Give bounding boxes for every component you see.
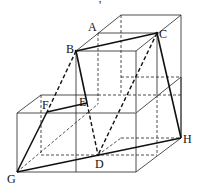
top-mark: ' [99, 0, 101, 12]
label-D: D [95, 157, 104, 171]
segment-CH [157, 33, 181, 138]
segment-FG [17, 112, 47, 172]
segment-BF [47, 51, 76, 112]
label-C: C [159, 27, 167, 41]
point-B [75, 50, 78, 53]
label-E: E [79, 95, 86, 109]
label-F: F [42, 98, 49, 112]
label-B: B [66, 42, 74, 56]
point-D [97, 154, 100, 157]
upper-back-face-edges [121, 15, 181, 138]
point-C [156, 32, 159, 35]
label-A: A [88, 20, 97, 34]
stacked-cubes-diagram: ' [0, 0, 198, 187]
segment-BC [76, 33, 157, 51]
lower-diag-hidden-edge [17, 104, 98, 172]
segment-ED [87, 103, 98, 155]
label-H: H [183, 132, 192, 146]
label-G: G [7, 172, 16, 186]
points [75, 32, 159, 157]
lower-top-left-edge [17, 95, 41, 113]
diagram-canvas: ' [0, 0, 198, 187]
